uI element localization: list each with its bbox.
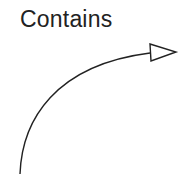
curved-arrow <box>0 0 188 180</box>
arrow-shaft <box>20 53 150 174</box>
arrowhead-icon <box>150 44 176 61</box>
